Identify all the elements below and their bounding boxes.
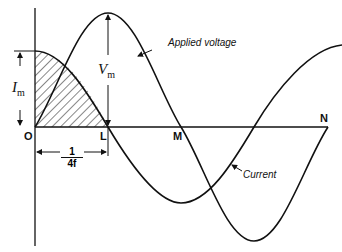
current-leader bbox=[232, 165, 242, 171]
point-o-label: O bbox=[24, 131, 33, 142]
point-l-label: L bbox=[100, 131, 107, 142]
im-label: Im bbox=[12, 80, 25, 98]
point-n-label: N bbox=[320, 113, 328, 124]
ac-capacitor-waveform-diagram: O L M N Applied voltage Current Im Vm 1 … bbox=[0, 0, 342, 252]
current-curve-label: Current bbox=[243, 170, 276, 180]
quarter-period-label: 1 4f bbox=[61, 146, 83, 169]
voltage-curve-label: Applied voltage bbox=[168, 38, 236, 48]
vm-label: Vm bbox=[98, 62, 115, 80]
point-m-label: M bbox=[173, 131, 182, 142]
